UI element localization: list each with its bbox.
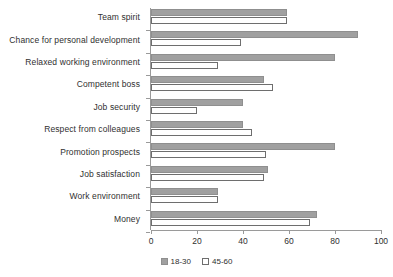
category-label-row: Job satisfaction (0, 163, 146, 185)
legend-label: 45-60 (212, 257, 232, 266)
bar-series-b (151, 196, 218, 203)
legend-label: 18-30 (171, 257, 191, 266)
bar-series-a (151, 99, 243, 106)
x-axis-tick (289, 230, 290, 234)
legend-item: 45-60 (202, 257, 232, 266)
bar-series-b (151, 219, 310, 226)
category-label: Job security (93, 102, 140, 112)
category-label-row: Relaxed working environment (0, 51, 146, 73)
x-axis-tick (243, 230, 244, 234)
bar-series-a (151, 211, 317, 218)
bar-group (151, 140, 381, 162)
bars-column (151, 6, 381, 230)
category-label: Respect from colleagues (44, 124, 140, 134)
category-label-row: Promotion prospects (0, 140, 146, 162)
bar-series-a (151, 54, 335, 61)
bar-group (151, 208, 381, 230)
bar-series-b (151, 129, 252, 136)
category-label-column: Team spiritChance for personal developme… (0, 6, 146, 230)
bar-series-b (151, 174, 264, 181)
y-axis-tick (146, 98, 150, 99)
x-axis-tick-label: 20 (192, 236, 201, 246)
legend-swatch-icon (202, 258, 209, 265)
bar-series-b (151, 62, 218, 69)
bar-series-a (151, 9, 287, 16)
bar-series-a (151, 143, 335, 150)
y-axis-tick (146, 75, 150, 76)
y-axis-tick (146, 120, 150, 121)
y-axis-tick (146, 53, 150, 54)
bar-group (151, 96, 381, 118)
legend-item: 18-30 (161, 257, 191, 266)
x-axis-tick (335, 230, 336, 234)
legend-swatch-icon (161, 258, 168, 265)
category-label-row: Team spirit (0, 6, 146, 28)
bar-series-a (151, 166, 268, 173)
category-label-row: Work environment (0, 185, 146, 207)
bar-series-a (151, 31, 358, 38)
y-axis-tick (146, 30, 150, 31)
y-axis-tick (146, 232, 150, 233)
y-axis-tick (146, 187, 150, 188)
y-axis-tick (146, 142, 150, 143)
y-axis-tick (146, 165, 150, 166)
x-axis-tick-label: 60 (284, 236, 293, 246)
x-axis-line (151, 230, 381, 231)
bar-group (151, 51, 381, 73)
category-label-row: Job security (0, 96, 146, 118)
bar-series-b (151, 107, 197, 114)
category-label: Team spirit (98, 12, 140, 22)
category-label-row: Competent boss (0, 73, 146, 95)
category-label: Chance for personal development (9, 35, 140, 45)
category-label: Job satisfaction (80, 169, 140, 179)
bar-series-b (151, 17, 287, 24)
bar-series-b (151, 151, 266, 158)
bar-group (151, 185, 381, 207)
x-axis-tick-label: 80 (330, 236, 339, 246)
bar-series-a (151, 188, 218, 195)
y-axis-tick (146, 210, 150, 211)
bar-chart: Team spiritChance for personal developme… (0, 0, 393, 277)
category-label-row: Respect from colleagues (0, 118, 146, 140)
plot-area: Team spiritChance for personal developme… (0, 6, 393, 230)
x-axis-tick (381, 230, 382, 234)
bar-group (151, 163, 381, 185)
category-label: Relaxed working environment (25, 57, 140, 67)
x-axis-tick (151, 230, 152, 234)
x-axis-tick-label: 100 (374, 236, 388, 246)
chart-legend: 18-3045-60 (0, 257, 393, 266)
category-label: Money (114, 214, 140, 224)
bar-group (151, 6, 381, 28)
bar-series-a (151, 121, 243, 128)
category-label-row: Chance for personal development (0, 28, 146, 50)
category-label-row: Money (0, 208, 146, 230)
bar-series-b (151, 39, 241, 46)
category-label: Competent boss (77, 79, 140, 89)
bar-group (151, 28, 381, 50)
bar-group (151, 73, 381, 95)
category-label: Work environment (70, 191, 140, 201)
bar-group (151, 118, 381, 140)
bar-series-a (151, 76, 264, 83)
bar-series-b (151, 84, 273, 91)
category-label: Promotion prospects (60, 147, 140, 157)
x-axis-tick-label: 40 (238, 236, 247, 246)
x-axis-tick-label: 0 (149, 236, 154, 246)
x-axis-tick (197, 230, 198, 234)
